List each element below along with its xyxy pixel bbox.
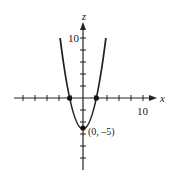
vertex-label: (0, –5) [88,126,115,138]
x-intercept-right [94,95,99,100]
x-axis-arrow-icon [149,95,157,101]
x-tick-label-10: 10 [137,105,149,117]
vertex-point [80,125,85,130]
z-axis-arrow-icon [80,22,86,30]
z-axis-label: z [81,10,87,22]
parabola-chart: z x 10 10 (0, –5) [0,0,174,177]
x-axis-label: x [159,92,165,104]
x-intercept-left [67,95,72,100]
z-tick-label-10: 10 [68,32,80,44]
